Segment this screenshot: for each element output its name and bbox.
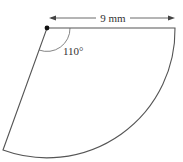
radius-dimension: 9 mm: [49, 12, 175, 24]
arrow-right-icon: [168, 16, 175, 21]
sector-shape: [3, 28, 175, 158]
angle-label: 110°: [63, 45, 84, 57]
center-point: [45, 26, 50, 31]
arrow-left-icon: [49, 16, 56, 21]
radius-label: 9 mm: [100, 12, 126, 24]
sector-diagram: 9 mm 110°: [0, 0, 183, 162]
